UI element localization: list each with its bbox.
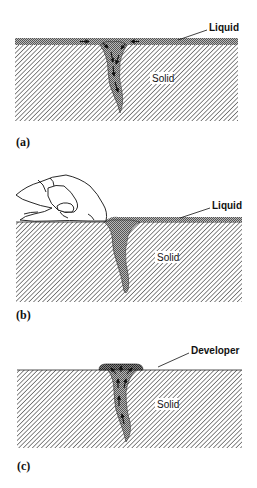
solid-block [17, 370, 242, 448]
panel-label-c: (c) [17, 459, 30, 473]
solid-label: Solid [157, 252, 179, 263]
hand-icon [16, 175, 107, 221]
penetrant-diagram: Liquid Solid (a) Liquid Solid (b) [0, 0, 257, 488]
liquid-callout: Liquid [209, 22, 239, 33]
liquid-layer [15, 38, 238, 45]
liquid-callout: Liquid [212, 200, 242, 211]
solid-label: Solid [152, 73, 174, 84]
panel-label-a: (a) [16, 135, 30, 149]
developer-leader-line [158, 353, 189, 367]
panel-label-b: (b) [16, 308, 31, 322]
solid-label: Solid [157, 399, 179, 410]
solid-block [15, 45, 238, 121]
developer-callout: Developer [191, 345, 239, 356]
panel-b: Liquid Solid (b) [16, 175, 242, 322]
liquid-leader-line [180, 208, 210, 218]
panel-c: Developer Solid (c) [17, 345, 242, 473]
panel-a: Liquid Solid (a) [15, 22, 239, 149]
